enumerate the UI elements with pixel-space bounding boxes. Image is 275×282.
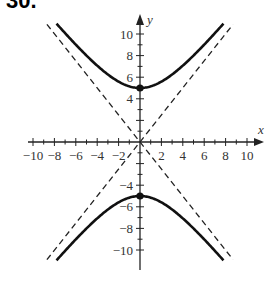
x-tick-label: −4 — [90, 148, 104, 163]
x-axis-label: x — [257, 122, 264, 137]
x-tick-label: −2 — [112, 148, 126, 163]
y-axis-label: y — [145, 12, 153, 27]
y-axis-arrow-icon — [136, 14, 144, 25]
y-tick-label: 8 — [127, 48, 134, 63]
x-tick-label: 6 — [201, 148, 208, 163]
x-tick-label: 4 — [180, 148, 187, 163]
x-tick-label: 2 — [158, 148, 165, 163]
y-tick-label: −10 — [113, 243, 133, 258]
x-tick-label: −6 — [69, 148, 83, 163]
x-axis-arrow-icon — [254, 138, 264, 146]
y-tick-label: 6 — [127, 70, 134, 85]
y-tick-label: 10 — [120, 27, 133, 42]
y-tick-label: −4 — [119, 178, 133, 193]
x-tick-label: 8 — [222, 148, 229, 163]
vertex-point — [136, 192, 143, 199]
x-tick-label: −10 — [23, 148, 43, 163]
vertex-point — [136, 84, 143, 91]
y-tick-label: 4 — [127, 91, 134, 106]
x-tick-label: −8 — [47, 148, 61, 163]
y-tick-label: −8 — [119, 221, 133, 236]
hyperbola-plot: −10−8−6−4−2246810−10−8−6−446810xy — [0, 0, 275, 282]
x-tick-label: 10 — [241, 148, 254, 163]
